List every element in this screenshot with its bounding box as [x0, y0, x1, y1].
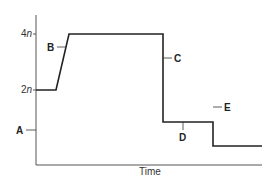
x-axis-label: Time — [139, 166, 161, 177]
tick-label-2n: 2n — [21, 84, 33, 95]
marker-b-label: B — [47, 42, 54, 53]
data-line — [36, 34, 262, 146]
marker-e-label: E — [224, 102, 231, 113]
diagram-canvas: 4n 2n A B C D E Time — [0, 0, 276, 181]
tick-label-4n: 4n — [21, 28, 33, 39]
marker-a-label: A — [16, 125, 23, 136]
marker-d-label: D — [179, 132, 186, 143]
marker-c-label: C — [174, 53, 181, 64]
